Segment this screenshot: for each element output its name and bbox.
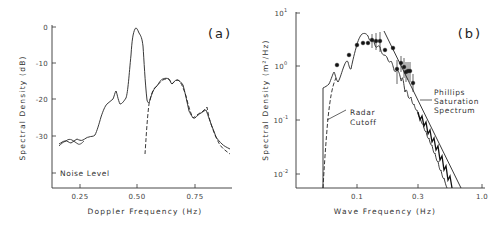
chart-b-solid-series <box>323 33 447 188</box>
chart-a-ytick-3: -30 <box>36 133 48 141</box>
radar-cutoff-leader <box>327 110 346 120</box>
chart-a-xtick-0: 0.25 <box>72 193 89 201</box>
chart-b-xtick-2: 1.0 <box>476 193 488 201</box>
chart-b-xtick-1: 0.3 <box>412 193 424 201</box>
chart-b-ytick-3: 10 -2 <box>273 168 288 179</box>
svg-text:0: 0 <box>284 60 287 66</box>
chart-a-ytick-2: -20 <box>36 96 48 104</box>
chart-a-x-ticks <box>80 184 195 188</box>
phillips-label-2: Saturation <box>434 97 479 106</box>
chart-a-x-label: Doppler Frequency (Hz) <box>87 207 202 216</box>
chart-b-ytick-0: 10 1 <box>274 7 287 18</box>
svg-text:1: 1 <box>284 7 287 13</box>
radar-cutoff-label-1: Radar <box>350 108 375 117</box>
chart-b-x-label: Wave Frequency (Hz) <box>334 207 436 216</box>
chart-b-y-label: Spectral Density (m²/Hz) <box>261 39 270 160</box>
chart-b-xtick-0: 0.1 <box>351 193 363 201</box>
chart-a-solid-series <box>59 28 230 149</box>
radar-cutoff-label-2: Cutoff <box>350 118 376 127</box>
chart-a: 0 -10 -20 -30 0.25 0.50 0.75 Doppler Fre… <box>18 24 232 216</box>
noise-level-label: Noise Level <box>60 169 110 178</box>
chart-b-x-ticks <box>357 184 482 188</box>
chart-b: 10 1 10 0 10 -1 10 -2 0.1 0.3 1.0 Wave F… <box>261 7 488 216</box>
svg-text:10: 10 <box>273 117 283 125</box>
chart-a-xtick-1: 0.50 <box>129 193 146 201</box>
figure: 0 -10 -20 -30 0.25 0.50 0.75 Doppler Fre… <box>0 0 503 226</box>
svg-text:-1: -1 <box>283 114 289 120</box>
phillips-label-1: Phillips <box>434 88 465 97</box>
svg-text:10: 10 <box>273 171 283 179</box>
chart-b-ytick-2: 10 -1 <box>273 114 288 125</box>
chart-b-data-points <box>335 32 415 92</box>
chart-b-y-ticks <box>296 13 300 174</box>
chart-a-y-label: Spectral Density (dB) <box>18 55 27 160</box>
chart-a-xtick-2: 0.75 <box>187 193 204 201</box>
chart-b-solid-series-tail <box>418 112 452 188</box>
chart-a-ytick-1: -10 <box>36 60 48 68</box>
chart-a-panel-label: (a) <box>208 26 232 41</box>
chart-b-panel-label: (b) <box>458 26 482 41</box>
svg-text:10: 10 <box>274 63 284 71</box>
phillips-label-3: Spectrum <box>434 106 475 115</box>
radar-cutoff-dashed <box>323 78 336 188</box>
chart-a-dashed-series <box>145 79 230 154</box>
chart-b-ytick-1: 10 0 <box>274 60 287 71</box>
chart-a-ytick-0: 0 <box>43 24 48 32</box>
svg-text:10: 10 <box>274 10 284 18</box>
chart-a-y-ticks <box>52 27 56 173</box>
svg-text:-2: -2 <box>283 168 289 174</box>
